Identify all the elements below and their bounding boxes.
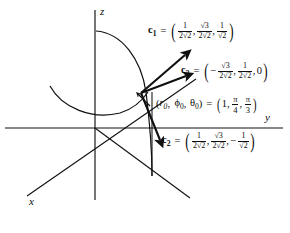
close-paren: ) — [263, 63, 267, 79]
comma: , — [207, 136, 210, 147]
vector-c1-component-3: 1 √2 — [217, 22, 227, 40]
close-paren: ) — [229, 23, 233, 39]
open-paren: ( — [172, 23, 176, 39]
vector-c1-label: c1 = ( 1 2√2 , √3 2√2 , 1 √2 ) — [148, 22, 235, 40]
comma: , — [212, 26, 215, 37]
vector-c2-component-3: 1 √2 — [238, 132, 248, 150]
negative-sign: − — [210, 66, 216, 77]
comma: , — [184, 99, 187, 110]
y-axis-label: y — [265, 112, 270, 123]
vector-c2-label: c2 = ( 1 2√2 , √3 2√2 , − 1 √2 ) — [162, 132, 256, 150]
vector-c2-symbol: c2 — [162, 135, 170, 148]
horizon-arc — [50, 86, 148, 115]
comma: , — [233, 66, 236, 77]
phi-symbol: ϕ0 — [175, 98, 184, 111]
vector-c3-symbol: c3 — [181, 65, 189, 78]
comma: , — [193, 26, 196, 37]
coords-close-paren: ) — [199, 99, 203, 110]
comma: , — [240, 99, 243, 110]
figure-vector-graphics — [0, 0, 290, 233]
vector-c1-equals: = — [160, 26, 166, 37]
point-coordinates-label: ( r0 , ϕ0 , θ0 ) = ( 1 , π 4 , π 3 ) — [156, 95, 258, 114]
open-paren: ( — [205, 63, 209, 79]
negative-sign: − — [230, 136, 236, 147]
vector-c1-symbol: c1 — [148, 25, 156, 38]
close-paren: ) — [253, 98, 257, 112]
meridian-arc — [96, 31, 152, 176]
r-symbol: r0 — [160, 98, 168, 111]
comma: , — [227, 99, 230, 110]
x-axis-label: x — [29, 196, 34, 207]
comma: , — [253, 66, 256, 77]
z-axis-label: z — [100, 6, 104, 17]
close-paren: ) — [251, 133, 255, 149]
vector-c3-label: c3 = ( − √3 2√2 , 1 2√2 , 0 ) — [181, 62, 269, 80]
comma: , — [167, 99, 170, 110]
open-paren: ( — [217, 98, 221, 112]
open-paren: ( — [186, 133, 190, 149]
comma: , — [226, 136, 229, 147]
vector-c1-component-1: 1 2√2 — [178, 22, 192, 40]
vector-c1-arrow — [141, 55, 185, 93]
vector-c1-component-2: √3 2√2 — [197, 22, 211, 40]
spherical-coordinates-figure: z y x c1 = ( 1 2√2 , √3 2√2 , 1 √2 ) c3 … — [0, 0, 290, 233]
vector-c2-component-1: 1 2√2 — [192, 132, 206, 150]
vector-c3-component-2: 1 2√2 — [238, 62, 252, 80]
vector-c3-equals: = — [193, 66, 199, 77]
vector-c2-component-2: √3 2√2 — [211, 132, 225, 150]
vector-c3-component-3: 0 — [257, 66, 262, 77]
vector-c3-component-1: √3 2√2 — [218, 62, 232, 80]
coords-equals: = — [206, 99, 212, 110]
phi-value: π 4 — [232, 95, 238, 114]
vector-c2-equals: = — [174, 136, 180, 147]
theta-value: π 3 — [245, 95, 251, 114]
theta-symbol: θ0 — [190, 98, 199, 111]
